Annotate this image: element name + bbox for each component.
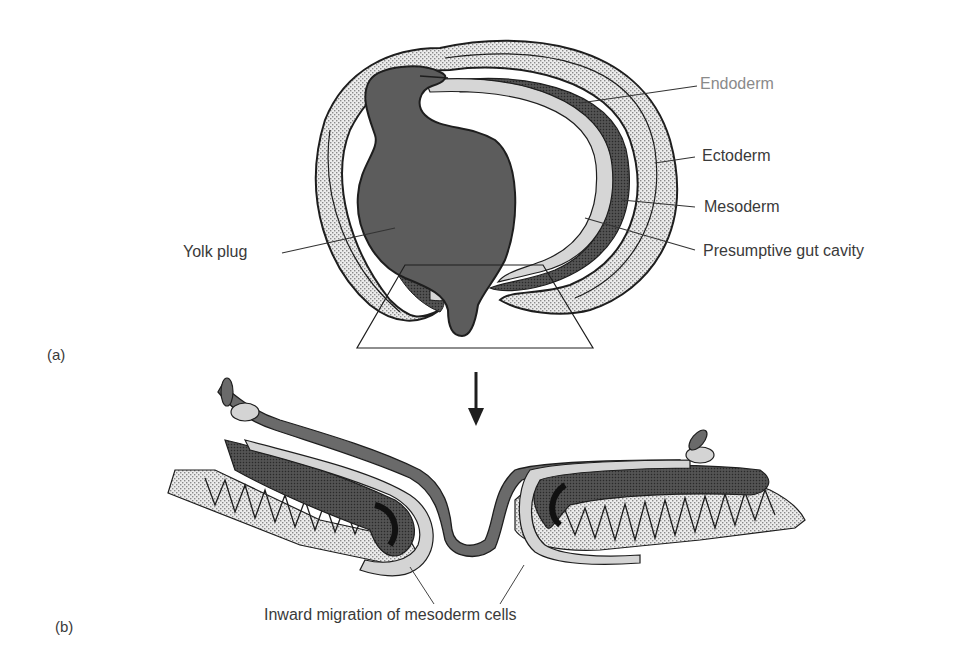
down-arrow-icon xyxy=(468,372,484,426)
panel-label-a: (a) xyxy=(47,347,65,362)
gut-cavity-label: Presumptive gut cavity xyxy=(703,243,864,259)
mesoderm-label: Mesoderm xyxy=(704,199,780,215)
panel-label-b: (b) xyxy=(55,619,73,634)
leader-lines-b xyxy=(410,565,524,604)
yolk-plug-label: Yolk plug xyxy=(183,244,247,260)
embryo-section-a xyxy=(316,41,677,348)
gastrulation-figure xyxy=(0,0,965,662)
cell-detail-b xyxy=(168,378,805,576)
endoderm-label: Endoderm xyxy=(700,76,774,92)
inward-migration-label: Inward migration of mesoderm cells xyxy=(264,607,517,623)
ectoderm-label: Ectoderm xyxy=(702,148,770,164)
